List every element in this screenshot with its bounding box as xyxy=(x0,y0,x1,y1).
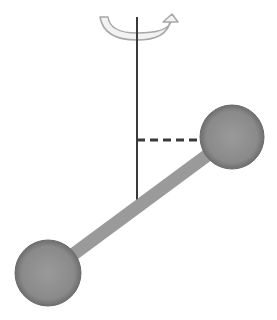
connecting-rod xyxy=(48,137,232,273)
dumbbell-diagram xyxy=(0,0,277,320)
rotation-arrow-icon xyxy=(100,14,178,40)
upper-right-mass xyxy=(200,105,264,169)
lower-left-mass xyxy=(15,240,81,306)
